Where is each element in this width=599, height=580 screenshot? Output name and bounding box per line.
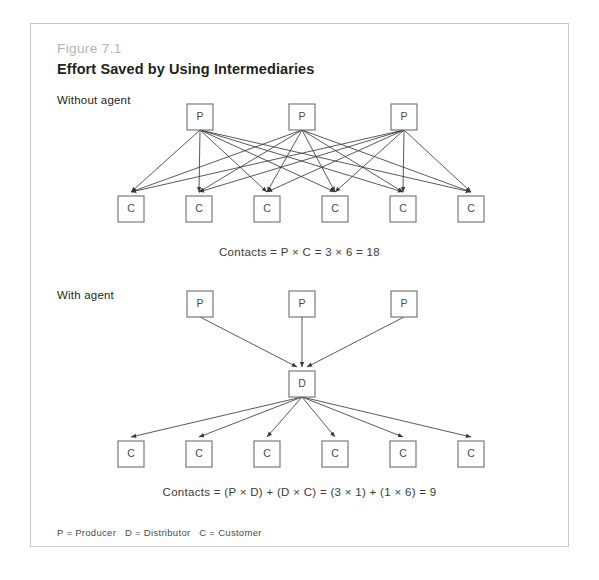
edge-producer-3-to-distributor — [307, 317, 404, 367]
node-customer-bottom-1: C — [118, 441, 144, 467]
edge-distributor-to-customer-4 — [302, 397, 335, 437]
node-producer-bottom-2-label: P — [298, 297, 305, 309]
node-customer-top-6: C — [458, 196, 484, 222]
edge-producer-2-to-customer-5 — [302, 130, 403, 192]
node-producer-bottom-1: P — [187, 291, 213, 317]
node-distributor: D — [289, 371, 315, 397]
node-producer-bottom-1-label: P — [196, 297, 203, 309]
edge-producer-1-to-customer-3 — [200, 130, 267, 192]
node-customer-top-1: C — [118, 196, 144, 222]
node-customer-bottom-6: C — [458, 441, 484, 467]
node-customer-top-4-label: C — [331, 202, 339, 214]
node-producer-top-2: P — [289, 104, 315, 130]
caption-without-agent: Contacts = P × C = 3 × 6 = 18 — [31, 246, 568, 258]
node-distributor-label: D — [298, 377, 306, 389]
edge-producer-3-to-customer-1 — [131, 130, 404, 192]
edge-distributor-to-customer-1 — [131, 397, 302, 437]
edge-producer-2-to-customer-3 — [267, 130, 302, 192]
edge-distributor-to-customer-6 — [302, 397, 471, 437]
caption-with-agent: Contacts = (P × D) + (D × C) = (3 × 1) +… — [31, 486, 568, 498]
node-producer-top-1: P — [187, 104, 213, 130]
node-customer-bottom-2-label: C — [195, 447, 203, 459]
node-customer-bottom-4: C — [322, 441, 348, 467]
node-producer-top-3: P — [391, 104, 417, 130]
node-customer-bottom-4-label: C — [331, 447, 339, 459]
edge-group-without-agent — [131, 130, 471, 192]
intermediaries-diagram: PPPCCCCCCPPPDCCCCCC — [31, 24, 570, 548]
node-producer-bottom-3-label: P — [400, 297, 407, 309]
node-producer-bottom-3: P — [391, 291, 417, 317]
node-customer-top-5-label: C — [399, 202, 407, 214]
edge-producer-2-to-customer-1 — [131, 130, 302, 192]
edge-producer-1-to-customer-1 — [131, 130, 200, 192]
node-producer-bottom-2: P — [289, 291, 315, 317]
node-customer-top-3: C — [254, 196, 280, 222]
edge-producer-1-to-distributor — [200, 317, 297, 367]
legend-key: P = Producer D = Distributor C = Custome… — [57, 527, 262, 538]
edge-producer-2-to-customer-4 — [302, 130, 335, 192]
node-customer-top-2: C — [186, 196, 212, 222]
edge-producer-3-to-customer-5 — [403, 130, 404, 192]
node-customer-bottom-6-label: C — [467, 447, 475, 459]
node-customer-top-6-label: C — [467, 202, 475, 214]
node-customer-bottom-3-label: C — [263, 447, 271, 459]
edge-producer-3-to-customer-3 — [267, 130, 404, 192]
node-customer-bottom-3: C — [254, 441, 280, 467]
node-customer-top-1-label: C — [127, 202, 135, 214]
node-customer-bottom-5: C — [390, 441, 416, 467]
node-customer-top-3-label: C — [263, 202, 271, 214]
edge-producer-2-to-customer-6 — [302, 130, 471, 192]
node-customer-top-5: C — [390, 196, 416, 222]
edge-producer-3-to-customer-4 — [335, 130, 404, 192]
node-customer-top-2-label: C — [195, 202, 203, 214]
node-producer-top-3-label: P — [400, 110, 407, 122]
edge-producer-1-to-customer-2 — [199, 130, 200, 192]
node-customer-bottom-1-label: C — [127, 447, 135, 459]
edge-distributor-to-customer-2 — [199, 397, 302, 437]
edge-producer-3-to-customer-6 — [404, 130, 471, 192]
node-customer-top-4: C — [322, 196, 348, 222]
node-producer-top-2-label: P — [298, 110, 305, 122]
edge-distributor-to-customer-3 — [267, 397, 302, 437]
node-customer-bottom-2: C — [186, 441, 212, 467]
node-group: PPPCCCCCCPPPDCCCCCC — [118, 104, 484, 467]
node-customer-bottom-5-label: C — [399, 447, 407, 459]
node-producer-top-1-label: P — [196, 110, 203, 122]
figure-frame: Figure 7.1 Effort Saved by Using Interme… — [30, 23, 569, 547]
